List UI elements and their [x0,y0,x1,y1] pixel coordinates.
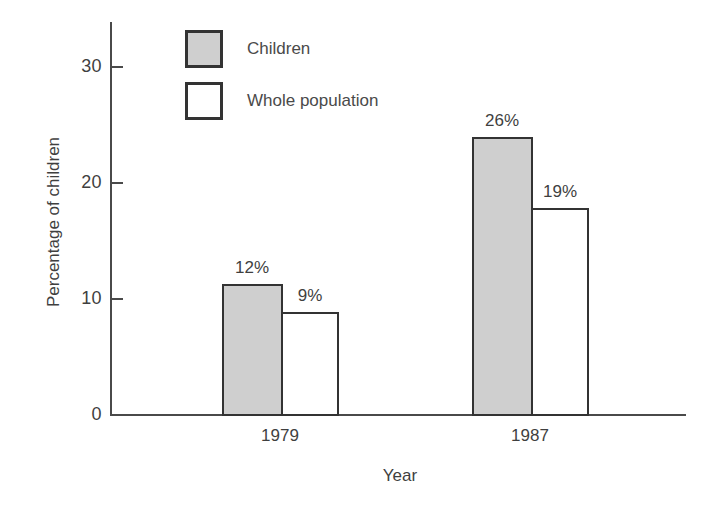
x-axis-title: Year [340,466,460,486]
legend-label-children: Children [247,39,310,59]
y-tick-10 [112,298,123,300]
bar-label-1979-children: 12% [202,258,302,278]
bar-label-1987-children: 26% [452,111,552,131]
legend-label-whole-population: Whole population [247,91,378,111]
y-tick-label-0: 0 [52,404,102,425]
y-tick-30 [112,66,123,68]
legend-swatch-whole-population [185,82,223,120]
bar-chart: 30 20 10 0 Percentage of children Year 1… [0,0,709,510]
x-group-label-1979: 1979 [230,426,330,446]
y-tick-20 [112,182,123,184]
legend-swatch-children [185,30,223,68]
y-axis-line [110,22,112,416]
bar-label-1979-whole-population: 9% [260,286,360,306]
x-axis-line [110,414,686,416]
x-group-label-1987: 1987 [480,426,580,446]
bar-1987-whole-population [531,208,589,416]
legend: Children Whole population [185,30,378,134]
bar-label-1987-whole-population: 19% [510,182,610,202]
bar-1987-children [472,137,533,416]
y-tick-label-30: 30 [52,56,102,77]
legend-item-children: Children [185,30,378,68]
y-axis-title: Percentage of children [44,112,64,332]
bar-1979-whole-population [281,312,339,416]
legend-item-whole-population: Whole population [185,82,378,120]
